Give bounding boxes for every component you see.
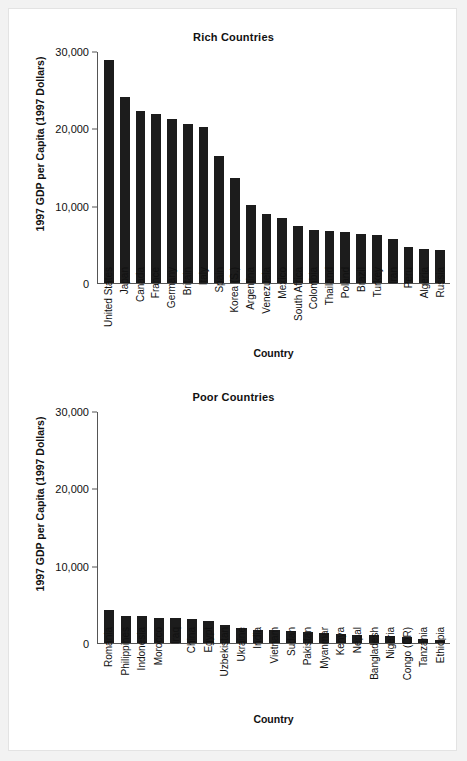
chart-rich-countries: Rich Countries 1997 GDP per Capita (1997… (9, 31, 458, 371)
bar-slot (290, 52, 306, 283)
x-tick-label: Vietnam (269, 627, 280, 664)
bar-slot (117, 52, 133, 283)
x-tick-label: Indonesia (136, 627, 147, 670)
x-label-slot: Brazil (353, 265, 369, 345)
bar (151, 114, 161, 283)
x-label-slot: United States (100, 265, 116, 345)
x-label-slot: Russia (432, 265, 448, 345)
x-label-slot: South Africa (290, 265, 306, 345)
x-tick-label: Bangladesh (368, 627, 379, 680)
x-tick-label: Korea (S.) (229, 267, 240, 313)
x-label-slot: Morocco (150, 625, 167, 705)
x-tick-label: Nepal (351, 627, 362, 653)
x-tick-label: Britain (181, 267, 192, 295)
bar (104, 60, 114, 283)
bar (136, 111, 146, 283)
x-axis-title-rich: Country (97, 347, 450, 359)
x-axis-title-poor: Country (97, 713, 450, 725)
x-tick-label: Ethiopia (434, 627, 445, 663)
x-label-slot: Britain (179, 265, 195, 345)
x-tick-label: France (150, 267, 161, 298)
bar-slot (196, 52, 212, 283)
x-tick-label: Poland (340, 267, 351, 298)
x-tick-label: Romania (103, 627, 114, 667)
x-tick-label: Argentina (245, 267, 256, 310)
x-tick-label: Egypt (202, 627, 213, 653)
chart-poor-countries: Poor Countries 1997 GDP per Capita (1997… (9, 391, 458, 741)
x-label-slot: Ethiopia (432, 625, 449, 705)
x-tick-label: Spain (213, 267, 224, 293)
bar-slot (134, 412, 151, 643)
x-label-slot: Germany (163, 265, 179, 345)
bar-slot (101, 412, 118, 643)
bar-slot (164, 52, 180, 283)
x-label-slot: Uzbekistan (216, 625, 233, 705)
x-label-slot: Canada (132, 265, 148, 345)
bar-slot (211, 52, 227, 283)
x-tick-label: Ukraine (235, 627, 246, 661)
x-tick-label: Mexico (276, 267, 287, 299)
x-label-slot: India (249, 625, 266, 705)
x-label-slot: Iran (385, 265, 401, 345)
plot-area-poor (97, 412, 450, 644)
bar-slot (401, 52, 417, 283)
x-tick-label: Thailand (324, 267, 335, 305)
x-label-slot: Bangladesh (365, 625, 382, 705)
bar-slot (180, 52, 196, 283)
bar (183, 124, 193, 283)
plot-wrap-poor: 1997 GDP per Capita (1997 Dollars) 30,00… (9, 412, 458, 644)
x-label-slot: Peru (400, 265, 416, 345)
x-tick-label: India (252, 627, 263, 649)
y-axis-ticks-poor: 30,000 20,000 10,000 0 (45, 412, 97, 644)
bar-slot (227, 52, 243, 283)
x-label-slot: Poland (337, 265, 353, 345)
bar-slot (399, 412, 416, 643)
bar-slot (349, 412, 366, 643)
bar-slot (337, 52, 353, 283)
x-label-slot: Spain (211, 265, 227, 345)
y-tick-label-20000-rich: 20,000 (55, 123, 89, 135)
x-axis-labels-poor: RomaniaPhilippinesIndonesiaMoroccoIraqCh… (100, 625, 448, 711)
x-label-slot: Mexico (274, 265, 290, 345)
x-label-slot: Myanmar (316, 625, 333, 705)
x-label-slot: Philippines (117, 625, 134, 705)
bar-slot (306, 52, 322, 283)
bar-slot (151, 412, 168, 643)
x-label-slot: Nigeria (382, 625, 399, 705)
bar (167, 119, 177, 283)
x-tick-label: Iran (387, 267, 398, 284)
bar-slot (332, 412, 349, 643)
x-label-slot: China (183, 625, 200, 705)
bar-slot (200, 412, 217, 643)
y-tick-label-0-rich: 0 (83, 278, 89, 290)
x-tick-label: Italy (197, 267, 208, 285)
bar-slot (415, 412, 432, 643)
plot-wrap-rich: 1997 GDP per Capita (1997 Dollars) 30,00… (9, 52, 458, 284)
x-axis-labels-rich: United StatesJapanCanadaFranceGermanyBri… (100, 265, 448, 345)
x-tick-label: Tanzania (418, 627, 429, 667)
y-tick-label-0-poor: 0 (83, 638, 89, 650)
x-label-slot: Kenya (332, 625, 349, 705)
x-label-slot: Thailand (321, 265, 337, 345)
bar-slot (432, 412, 449, 643)
x-label-slot: Congo (DR) (398, 625, 415, 705)
x-tick-label: Canada (134, 267, 145, 302)
x-tick-label: South Africa (292, 267, 303, 321)
x-label-slot: Nepal (349, 625, 366, 705)
bar-slot (233, 412, 250, 643)
x-tick-label: China (186, 627, 197, 653)
bar-slot (385, 52, 401, 283)
x-tick-label: Uzbekistan (219, 627, 230, 676)
bar-slot (353, 52, 369, 283)
x-label-slot: Colombia (306, 265, 322, 345)
x-tick-label: Morocco (153, 627, 164, 665)
bar (199, 127, 209, 283)
x-tick-label: Japan (118, 267, 129, 294)
x-tick-label: United States (102, 267, 113, 327)
bar (120, 97, 130, 283)
y-tick-label-10000-rich: 10,000 (55, 201, 89, 213)
y-tick-label-30000-poor: 30,000 (55, 406, 89, 418)
plot-area-rich (97, 52, 450, 284)
bar-slot (243, 52, 259, 283)
x-tick-label: Brazil (355, 267, 366, 292)
